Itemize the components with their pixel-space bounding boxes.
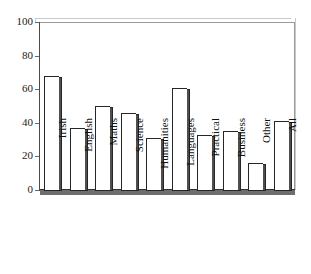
x-axis-label-box: Humanities bbox=[147, 0, 161, 78]
x-axis-label-box: English bbox=[71, 0, 85, 78]
x-axis-tick-label: Languages bbox=[185, 118, 196, 196]
x-axis-tick-label: Humanities bbox=[159, 118, 170, 196]
x-axis-tick-label: Practical bbox=[210, 118, 221, 196]
x-axis-tick-label: Maths bbox=[108, 118, 119, 196]
x-axis-tick-label: All bbox=[287, 118, 298, 196]
x-axis-label-box: Irish bbox=[45, 0, 59, 78]
x-axis-tick-label: Other bbox=[261, 118, 272, 196]
x-axis-tick-label: Business bbox=[236, 118, 247, 196]
x-axis-label-box: Business bbox=[224, 0, 238, 78]
x-axis-tick-label: Science bbox=[134, 118, 145, 196]
x-axis-tick-label: English bbox=[83, 118, 94, 196]
x-axis-label-box: Languages bbox=[173, 0, 187, 78]
x-axis-tick-label: Irish bbox=[57, 118, 68, 196]
x-axis-label-box: Maths bbox=[96, 0, 110, 78]
x-axis-label-box: All bbox=[275, 0, 289, 78]
x-axis-label-box: Science bbox=[122, 0, 136, 78]
x-axis-label-box: Practical bbox=[198, 0, 212, 78]
x-axis-label-box: Other bbox=[249, 0, 263, 78]
bar-chart: 100806040200 IrishEnglishMathsScienceHum… bbox=[0, 0, 311, 274]
